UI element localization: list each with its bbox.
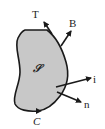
surface-diagram: T B i n 𝒮 C (0, 0, 105, 129)
vector-n-arrow (57, 92, 81, 102)
vector-B-arrow (61, 31, 71, 46)
label-n: n (84, 98, 90, 110)
label-i: i (93, 73, 96, 85)
label-B: B (69, 17, 76, 29)
label-T: T (32, 8, 39, 20)
label-boundary-C: C (33, 115, 41, 127)
